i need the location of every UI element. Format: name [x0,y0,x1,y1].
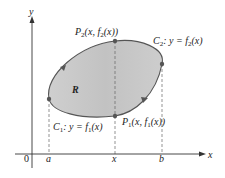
double-integral-region-diagram: y x 0 a x b R P2(x, f2(x)) C2: y = f2(x)… [0,0,225,178]
x-axis-arrow-icon [199,152,206,157]
origin-label: 0 [24,153,29,164]
region-label: R [71,84,79,95]
c2-label: C2: y = f2(x) [153,35,203,48]
point-p1 [113,114,117,118]
tick-x: x [111,153,117,164]
point-p2 [113,39,117,43]
tick-b: b [159,153,164,164]
p1-label: P1(x, f1(x)) [121,116,166,129]
y-axis-label: y [28,6,34,17]
tick-a: a [46,153,51,164]
x-axis-label: x [207,149,213,160]
point-right [160,62,164,66]
y-axis-arrow-icon [30,16,35,23]
region-r [49,40,163,117]
point-left [47,97,51,101]
p2-label: P2(x, f2(x)) [74,26,119,39]
c1-label: C1: y = f1(x) [53,121,103,134]
